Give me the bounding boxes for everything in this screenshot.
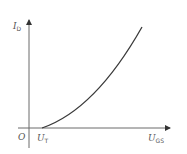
- y-axis-label: ID: [12, 21, 22, 32]
- transfer-curve: [42, 27, 142, 128]
- transfer-characteristic-diagram: ID O UT UGS: [0, 0, 187, 154]
- x-axis-label: UGS: [148, 133, 164, 144]
- threshold-label: UT: [37, 133, 49, 144]
- origin-label: O: [18, 132, 26, 142]
